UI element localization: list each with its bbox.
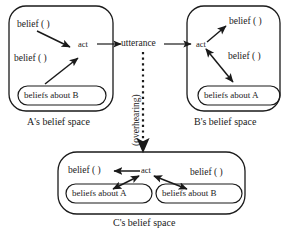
beliefs-about-a-c-label: beliefs about A (72, 189, 127, 198)
arrow-a-belief-top-to-act (37, 31, 70, 47)
belief-space-a-caption: A's belief space (27, 117, 90, 127)
act-c-label: act (141, 166, 151, 175)
arrow-b-act-to-belief-top (207, 26, 226, 42)
beliefs-about-b-a-label: beliefs about B (24, 91, 79, 100)
belief-c-right-label: belief ( ) (190, 168, 223, 178)
belief-space-c-caption: C's belief space (113, 218, 175, 228)
act-b-label: act (196, 40, 206, 49)
beliefs-about-a-b-label: beliefs about A (204, 91, 259, 100)
beliefs-about-b-c-label: beliefs about B (162, 189, 217, 198)
overhearing-label: (overhearing) (132, 94, 142, 146)
belief-c-left-label: belief ( ) (68, 166, 101, 176)
act-a-label: act (78, 40, 88, 49)
belief-b-bottom-label: belief ( ) (228, 52, 261, 62)
belief-a-bottom-label: belief ( ) (14, 54, 47, 64)
arrow-a-pill-to-act (45, 58, 78, 84)
belief-space-b-caption: B's belief space (194, 117, 256, 127)
belief-b-top-label: belief ( ) (229, 17, 262, 27)
utterance-label: utterance (121, 39, 156, 49)
belief-a-top-label: belief ( ) (17, 20, 50, 30)
diagram-canvas: belief ( ) belief ( ) act beliefs about … (0, 0, 287, 235)
belief-space-c-box (58, 152, 245, 214)
